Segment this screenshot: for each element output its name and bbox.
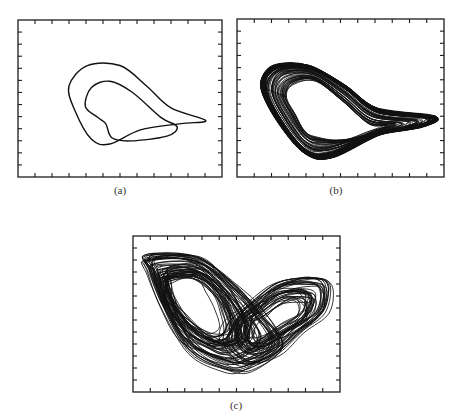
caption-b: (b) — [330, 184, 343, 197]
caption-c: (c) — [230, 399, 243, 412]
limit-cycle-inner — [85, 81, 177, 141]
trajectory-c — [141, 253, 333, 374]
panel-b: (b) — [237, 19, 444, 197]
caption-a: (a) — [114, 184, 127, 197]
limit-cycle-outer — [68, 63, 205, 145]
ticks-a — [18, 20, 222, 177]
plot-frame-a — [18, 20, 222, 177]
figure: (a) (b) (c) — [0, 0, 457, 419]
trajectory-b — [261, 63, 438, 159]
trajectory-a — [68, 63, 205, 145]
panel-c: (c) — [133, 236, 340, 412]
panel-a: (a) — [18, 20, 222, 197]
